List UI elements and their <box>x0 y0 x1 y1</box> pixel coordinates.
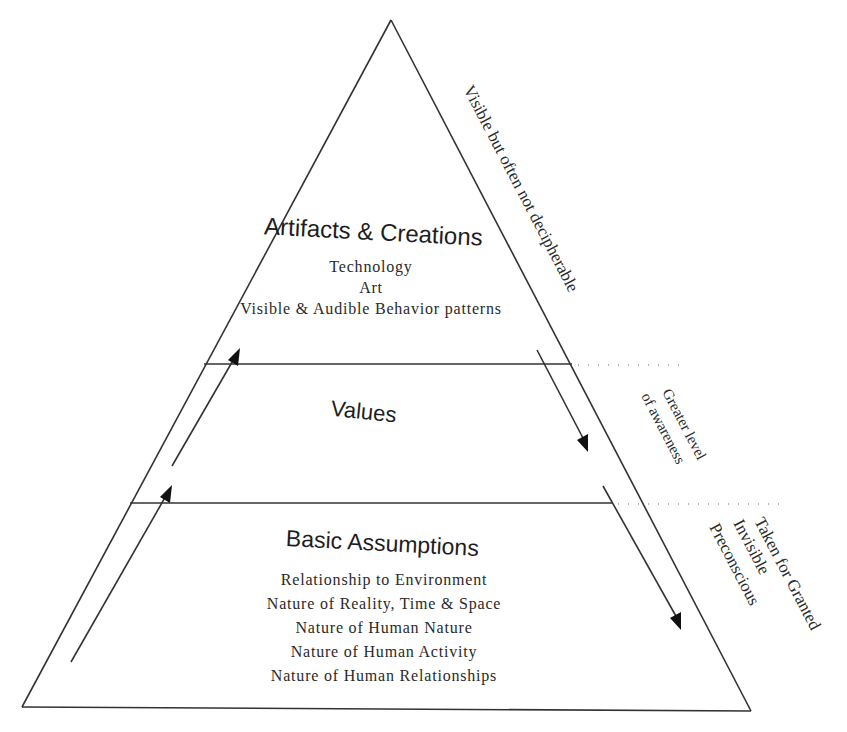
right-downward-arrow-lower <box>603 486 681 630</box>
assumption-item: Nature of Human Relationships <box>271 667 497 685</box>
assumption-item: Nature of Reality, Time & Space <box>267 595 501 613</box>
layer-title-basic-assumptions: Basic Assumptions <box>285 525 479 561</box>
layer-values: Values <box>330 396 398 428</box>
left-upward-arrow-lower <box>71 485 172 662</box>
artifacts-item: Technology <box>329 258 412 276</box>
artifacts-item: Art <box>359 279 383 296</box>
assumption-item: Nature of Human Activity <box>291 643 478 661</box>
artifacts-item: Visible & Audible Behavior patterns <box>240 300 502 318</box>
layer-artifacts: Artifacts & Creations Technology Art Vis… <box>240 212 502 318</box>
arrowhead-up-icon <box>160 485 172 503</box>
assumption-item: Relationship to Environment <box>281 571 487 589</box>
pyramid-base <box>22 707 751 711</box>
culture-levels-pyramid: Artifacts & Creations Technology Art Vis… <box>0 0 847 732</box>
side-label-visible: Visible but often not decipherable <box>459 82 582 295</box>
layer-title-artifacts: Artifacts & Creations <box>264 212 484 250</box>
assumption-item: Nature of Human Nature <box>295 619 472 636</box>
layer-basic-assumptions: Basic Assumptions Relationship to Enviro… <box>267 525 501 685</box>
right-downward-arrow-upper <box>537 350 588 452</box>
layer-title-values: Values <box>330 396 398 428</box>
